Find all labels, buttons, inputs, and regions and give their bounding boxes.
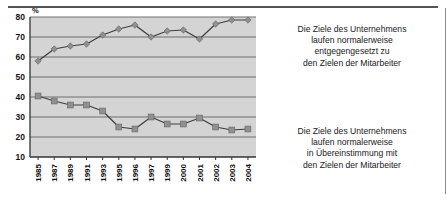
annotation-top-line-4: den Zielen der Mitarbeiter bbox=[272, 58, 432, 69]
x-tick-label: 1995 bbox=[115, 163, 124, 181]
data-point-marker bbox=[213, 124, 219, 130]
y-tick-label: 70 bbox=[16, 32, 26, 42]
y-tick-label: 80 bbox=[16, 12, 26, 22]
y-tick-label: 50 bbox=[16, 72, 26, 82]
x-tick-label: 2004 bbox=[244, 163, 253, 181]
y-tick-label: 20 bbox=[16, 132, 26, 142]
y-tick-label: 10 bbox=[16, 152, 26, 162]
x-tick-label: 1991 bbox=[83, 163, 92, 181]
data-point-marker bbox=[180, 121, 186, 127]
annotation-bottom-line-1: Die Ziele des Unternehmens bbox=[272, 126, 432, 137]
data-point-marker bbox=[229, 127, 235, 133]
x-tick-label: 1996 bbox=[131, 163, 140, 181]
y-tick-label: 60 bbox=[16, 52, 26, 62]
annotation-bottom-line-3: in Übereinstimmung mit bbox=[272, 148, 432, 159]
y-tick-label: 40 bbox=[16, 92, 26, 102]
data-point-marker bbox=[84, 102, 90, 108]
x-tick-label: 1989 bbox=[66, 163, 75, 181]
annotation-bottom: Die Ziele des Unternehmens laufen normal… bbox=[272, 126, 432, 171]
plot-background bbox=[30, 17, 256, 157]
annotation-top-line-3: entgegengesetzt zu bbox=[272, 46, 432, 57]
data-point-marker bbox=[67, 102, 73, 108]
x-tick-label: 1993 bbox=[99, 163, 108, 181]
data-point-marker bbox=[116, 124, 122, 130]
annotation-bottom-line-2: laufen normalerweise bbox=[272, 137, 432, 148]
x-tick-label: 1997 bbox=[147, 163, 156, 181]
annotation-top-line-2: laufen normalerweise bbox=[272, 35, 432, 46]
x-tick-label: 2000 bbox=[179, 163, 188, 181]
x-axis-ticks: 1985198719891991199319951996199719992000… bbox=[34, 157, 253, 182]
data-point-marker bbox=[164, 121, 170, 127]
data-point-marker bbox=[51, 98, 57, 104]
chart-page: 1020304050607080%19851987198919911993199… bbox=[0, 0, 448, 209]
y-axis-unit-label: % bbox=[32, 6, 39, 15]
x-tick-label: 2003 bbox=[228, 163, 237, 181]
data-point-marker bbox=[132, 126, 138, 132]
x-tick-label: 2002 bbox=[212, 163, 221, 181]
x-tick-label: 2001 bbox=[196, 163, 205, 181]
x-tick-label: 1999 bbox=[163, 163, 172, 181]
y-tick-label: 30 bbox=[16, 112, 26, 122]
x-tick-label: 1987 bbox=[50, 163, 59, 181]
data-point-marker bbox=[35, 93, 41, 99]
data-point-marker bbox=[197, 115, 203, 121]
data-point-marker bbox=[148, 114, 154, 120]
annotation-top-line-1: Die Ziele des Unternehmens bbox=[272, 24, 432, 35]
annotation-top: Die Ziele des Unternehmens laufen normal… bbox=[272, 24, 432, 69]
data-point-marker bbox=[245, 126, 251, 132]
x-tick-label: 1985 bbox=[34, 163, 43, 181]
annotation-bottom-line-4: den Zielen der Mitarbeiter bbox=[272, 160, 432, 171]
data-point-marker bbox=[100, 108, 106, 114]
